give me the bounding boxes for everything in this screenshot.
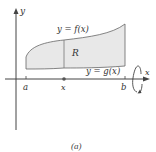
upper-curve-label: y = f(x) — [56, 24, 89, 34]
y-axis-arrow-icon — [14, 8, 19, 14]
tick-label-b: b — [121, 82, 126, 92]
rotation-arrow-icon — [133, 66, 142, 94]
figure-caption: (a) — [71, 141, 82, 151]
point-x-marker — [62, 77, 66, 81]
region-label: R — [71, 48, 79, 58]
lower-curve-label: y = g(x) — [85, 66, 120, 76]
x-axis-arrow-icon — [143, 77, 150, 82]
x-axis-label: x — [145, 68, 150, 77]
tick-label-x: x — [61, 83, 66, 92]
tick-label-a: a — [23, 82, 28, 92]
solid-of-revolution-diagram: y x a x b y = f(x) y = g(x) R (a) — [0, 0, 156, 152]
y-axis-label: y — [19, 6, 26, 16]
